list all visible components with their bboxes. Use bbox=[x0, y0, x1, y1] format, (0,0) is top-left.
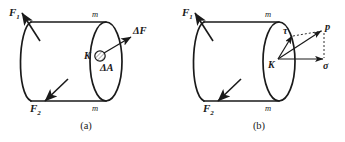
label-section-m-top-a: m bbox=[92, 10, 98, 19]
force-arrow-f2-a bbox=[45, 79, 68, 101]
figure-root: F1 F2 m m K ΔF ΔA (a) bbox=[0, 0, 345, 142]
delta-force-arrow-a bbox=[104, 37, 131, 53]
cylinder-body-b bbox=[193, 22, 279, 101]
label-delta-area-a: ΔA bbox=[100, 63, 114, 74]
label-shear-stress-tau-b: τ bbox=[283, 26, 287, 36]
label-total-stress-p-b: p bbox=[325, 22, 330, 33]
panel-b: F1 F2 m m K τ p σ (b) bbox=[173, 0, 345, 142]
label-normal-stress-sigma-b: σ bbox=[323, 61, 328, 71]
label-section-m-bottom-b: m bbox=[265, 104, 271, 113]
stress-vector-tau-b bbox=[278, 36, 292, 59]
label-section-m-bottom-a: m bbox=[92, 104, 98, 113]
label-force-f2-a: F2 bbox=[30, 103, 41, 117]
caption-panel-a: (a) bbox=[0, 120, 172, 131]
label-delta-force-a: ΔF bbox=[133, 26, 147, 37]
force-arrow-f1-a bbox=[22, 13, 40, 41]
label-force-f1-a: F1 bbox=[9, 7, 20, 21]
label-section-m-top-b: m bbox=[265, 10, 271, 19]
panel-a: F1 F2 m m K ΔF ΔA (a) bbox=[0, 0, 172, 142]
caption-panel-b: (b) bbox=[173, 120, 345, 131]
cylinder-body-a bbox=[20, 22, 106, 101]
force-arrow-f1-b bbox=[195, 13, 213, 41]
label-force-f2-b: F2 bbox=[203, 103, 214, 117]
delta-area-element-a bbox=[95, 51, 105, 61]
force-arrow-f2-b bbox=[218, 79, 241, 101]
label-point-k-b: K bbox=[268, 60, 275, 70]
label-force-f1-b: F1 bbox=[182, 7, 193, 21]
label-point-k-a: K bbox=[84, 51, 91, 61]
